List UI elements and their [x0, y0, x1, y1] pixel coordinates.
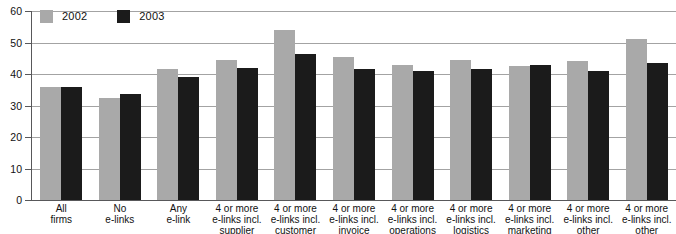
category-label: All firms: [32, 204, 91, 234]
bar-2003[interactable]: [354, 69, 375, 200]
bar-group: [442, 0, 501, 200]
bar-group: [325, 0, 384, 200]
chart-legend: 2002 2003: [40, 10, 165, 23]
bar-2003[interactable]: [178, 77, 199, 200]
bar-pair: [559, 0, 618, 200]
bar-pair: [500, 0, 559, 200]
category-label: 4 or more e-links incl. logistics: [442, 204, 501, 234]
bar-pair: [383, 0, 442, 200]
bar-group: [32, 0, 91, 200]
legend-swatch-2003: [117, 10, 130, 23]
bar-2002[interactable]: [626, 39, 647, 200]
bar-group: [149, 0, 208, 200]
bar-2002[interactable]: [274, 30, 295, 200]
bar-2002[interactable]: [392, 65, 413, 200]
bar-pair: [266, 0, 325, 200]
bar-pair: [32, 0, 91, 200]
bar-pair: [208, 0, 267, 200]
category-label: 4 or more e-links incl. marketing: [500, 204, 559, 234]
bar-pair: [442, 0, 501, 200]
bar-pair: [617, 0, 676, 200]
bar-pair: [91, 0, 150, 200]
category-label: No e-links: [91, 204, 150, 234]
category-label: 4 or more e-links incl. operations: [383, 204, 442, 234]
category-label: 4 or more e-links incl. customer: [266, 204, 325, 234]
bar-2002[interactable]: [509, 66, 530, 200]
y-tick-label: 30: [2, 101, 22, 111]
bar-pair: [325, 0, 384, 200]
bar-2002[interactable]: [450, 60, 471, 200]
bar-2003[interactable]: [647, 63, 668, 200]
category-label: Any e-link: [149, 204, 208, 234]
legend-entry-2003: 2003: [117, 10, 164, 23]
category-label: 4 or more e-links incl. invoice: [325, 204, 384, 234]
bar-2003[interactable]: [295, 54, 316, 200]
bar-2003[interactable]: [413, 71, 434, 200]
bar-group: [617, 0, 676, 200]
x-axis-line: [31, 200, 676, 201]
bar-2003[interactable]: [588, 71, 609, 200]
bar-group: [266, 0, 325, 200]
y-tick-label: 20: [2, 132, 22, 142]
y-tick-label: 0: [2, 195, 22, 205]
bar-2003[interactable]: [530, 65, 551, 200]
legend-swatch-2002: [40, 10, 53, 23]
bar-2003[interactable]: [120, 94, 141, 200]
bar-group: [500, 0, 559, 200]
bar-group: [383, 0, 442, 200]
x-axis-category-labels: All firmsNo e-linksAny e-link4 or more e…: [32, 204, 676, 234]
bar-2002[interactable]: [157, 69, 178, 200]
legend-label-2002: 2002: [62, 10, 87, 23]
bar-2002[interactable]: [216, 60, 237, 200]
legend-label-2003: 2003: [139, 10, 164, 23]
y-tick-label: 60: [2, 6, 22, 16]
legend-entry-2002: 2002: [40, 10, 87, 23]
bar-2003[interactable]: [61, 87, 82, 200]
bar-2002[interactable]: [333, 57, 354, 200]
category-label: 4 or more e-links incl. other external: [617, 204, 676, 234]
bar-groups: [32, 0, 676, 200]
category-label: 4 or more e-links incl. other internal: [559, 204, 618, 234]
bar-group: [91, 0, 150, 200]
bar-2002[interactable]: [40, 87, 61, 200]
y-tick-label: 50: [2, 38, 22, 48]
y-axis-labels: 0102030405060: [0, 0, 22, 234]
category-label: 4 or more e-links incl. supplier: [208, 204, 267, 234]
y-tick-label: 40: [2, 69, 22, 79]
bar-2002[interactable]: [567, 61, 588, 200]
bar-group: [208, 0, 267, 200]
bar-2003[interactable]: [237, 68, 258, 200]
bar-chart: 2002 2003 0102030405060 All firmsNo e-li…: [0, 0, 676, 234]
bar-2002[interactable]: [99, 98, 120, 200]
bar-group: [559, 0, 618, 200]
bar-pair: [149, 0, 208, 200]
y-tick-label: 10: [2, 164, 22, 174]
bar-2003[interactable]: [471, 69, 492, 200]
